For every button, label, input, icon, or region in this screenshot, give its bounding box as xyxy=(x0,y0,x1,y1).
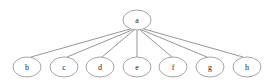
tree-node-c[interactable]: c xyxy=(50,57,78,77)
tree-node-f[interactable]: f xyxy=(159,57,187,77)
tree-node-h[interactable]: h xyxy=(233,57,261,77)
tree-edge-a-c xyxy=(67,30,132,57)
tree-edge-a-g xyxy=(142,30,207,57)
node-label-a: a xyxy=(135,16,139,25)
tree-node-g[interactable]: g xyxy=(196,57,224,77)
node-label-e: e xyxy=(135,63,139,72)
tree-node-a[interactable]: a xyxy=(123,10,151,30)
edges-group xyxy=(31,29,243,57)
tree-edge-a-b xyxy=(31,29,130,57)
tree-diagram: abcdefgh xyxy=(0,0,276,83)
tree-node-d[interactable]: d xyxy=(86,57,114,77)
node-label-d: d xyxy=(98,63,102,72)
tree-diagram-canvas: abcdefgh xyxy=(0,0,276,83)
tree-edge-a-h xyxy=(144,29,243,57)
tree-edge-a-f xyxy=(140,30,172,57)
tree-node-e[interactable]: e xyxy=(123,57,151,77)
node-label-h: h xyxy=(245,63,249,72)
tree-edge-a-d xyxy=(102,30,134,57)
node-label-c: c xyxy=(62,63,66,72)
node-label-g: g xyxy=(208,63,212,72)
tree-node-b[interactable]: b xyxy=(13,57,41,77)
node-label-b: b xyxy=(25,63,29,72)
node-label-f: f xyxy=(172,63,175,72)
